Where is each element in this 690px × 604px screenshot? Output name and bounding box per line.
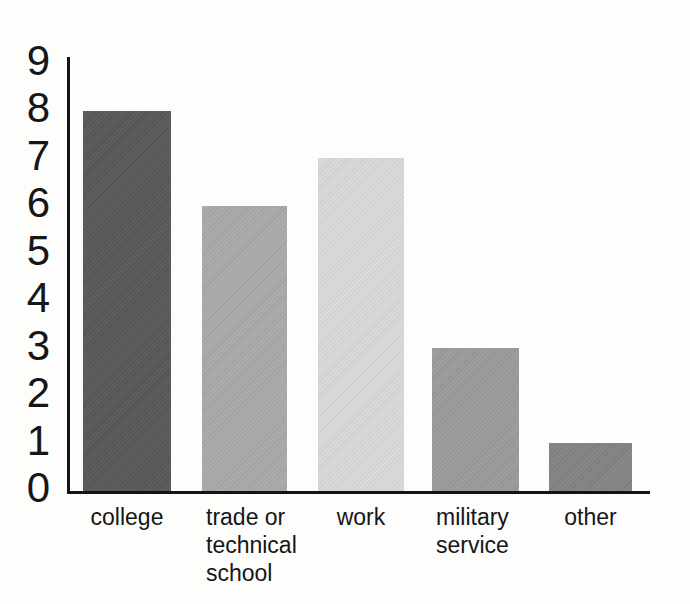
y-tick-label-2: 2 <box>0 369 50 417</box>
bar-college <box>83 111 171 491</box>
y-axis-line <box>67 57 70 494</box>
x-category-label-line: other <box>537 503 644 531</box>
x-category-label-military-service: militaryservice <box>436 503 509 559</box>
x-category-label-college: college <box>71 503 183 531</box>
y-tick-label-6: 6 <box>0 179 50 227</box>
x-category-label-line: trade or <box>206 503 297 531</box>
y-tick-label-3: 3 <box>0 322 50 370</box>
y-tick-label-5: 5 <box>0 227 50 275</box>
x-category-label-line: work <box>306 503 416 531</box>
bar-trade-or-technical-school <box>202 206 287 491</box>
bar-other <box>549 443 632 491</box>
x-category-label-line: military <box>436 503 509 531</box>
x-axis-line <box>67 491 650 494</box>
y-tick-label-7: 7 <box>0 132 50 180</box>
x-category-label-other: other <box>537 503 644 531</box>
x-category-label-work: work <box>306 503 416 531</box>
y-tick-label-4: 4 <box>0 274 50 322</box>
y-tick-label-8: 8 <box>0 84 50 132</box>
bar-chart: 0123456789 collegetrade ortechnicalschoo… <box>0 0 690 604</box>
x-category-label-line: technical <box>206 531 297 559</box>
y-tick-label-0: 0 <box>0 464 50 512</box>
y-tick-label-1: 1 <box>0 417 50 465</box>
bar-work <box>318 158 404 491</box>
x-category-label-line: school <box>206 559 297 587</box>
x-category-label-line: college <box>71 503 183 531</box>
bar-military-service <box>432 348 519 491</box>
x-category-label-line: service <box>436 531 509 559</box>
x-category-label-trade-or-technical-school: trade ortechnicalschool <box>206 503 297 587</box>
y-tick-label-9: 9 <box>0 37 50 85</box>
